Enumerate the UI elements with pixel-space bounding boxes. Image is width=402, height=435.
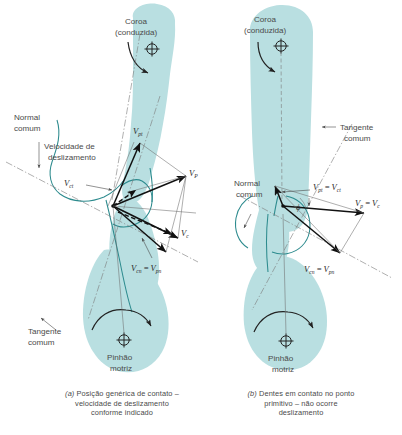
panel-a-driven-label-line1: Coroa [125,17,148,26]
panel-b-vector-label-vp-vc: Vp=Vc [355,198,380,209]
panel-a-driving-label-line1: Pinhão [107,353,133,362]
panel-b-driven-label-line1: Coroa [254,15,277,24]
gear-contact-figure: Normal comum Tangente comum Velocidade d… [0,0,402,435]
caption-b-marker: (b) [248,389,257,398]
panel-b-normal-label-line2: comum [236,190,263,199]
panel-a-tangent-label-line2: comum [28,338,55,347]
caption-panel-b: (b) Dentes em contato no ponto primitivo… [212,389,390,418]
caption-a-line3: conforme indicado [91,408,153,417]
panel-a-sliding-label-line1: Velocidade de [44,142,95,151]
panel-a-driving-label-line2: motriz [110,364,132,373]
panel-b-driving-label-line1: Pinhão [268,354,294,363]
panel-b-angle-phi-label: ϕ [296,202,301,212]
caption-b-line1: Dentes em contato no ponto [259,389,354,398]
panel-a-normal-label-line1: Normal [14,113,40,122]
caption-b-line3: deslizamento [279,408,324,417]
panel-b: Coroa (conduzida) Tangente comum Normal … [234,5,392,374]
panel-a-vector-label-vp: VP [189,168,198,179]
panel-b-left-tooth-profile [236,196,253,248]
caption-a-line1: Posição genérica de contato – [77,389,179,398]
caption-a-line2: velocidade de deslizamento [75,399,169,408]
panel-a-normal-label-line2: comum [14,124,41,133]
panel-b-tangent-label-line1: Tangente [340,123,374,132]
caption-a-marker: (a) [65,389,74,398]
panel-b-vector-label-vpt-vct: Vpt=Vct [313,182,341,193]
panel-b-vector-label-vcn-vpn: Vcn=Vpn [304,264,335,275]
panel-b-driven-label-line2: (conduzida) [244,26,287,35]
panel-a-vector-label-vc: Vc [181,228,189,239]
panel-b-normal-leader [244,214,251,228]
caption-b-line2: primitivo – não ocorre [264,399,337,408]
panel-b-normal-label-line1: Normal [234,179,260,188]
panel-a-driven-label-line2: (conduzida) [115,28,158,37]
panel-a: Normal comum Tangente comum Velocidade d… [6,4,198,373]
panel-a-common-tangent-line [6,162,198,262]
caption-panel-a: (a) Posição genérica de contato – veloci… [34,389,210,418]
panel-a-tangent-label-line1: Tangente [28,327,62,336]
panel-a-vector-label-vct: Vct [64,178,74,189]
panel-a-vct-leader [86,185,112,190]
panel-b-driving-label-line2: motriz [272,365,294,374]
panel-b-tangent-label-line2: comum [344,134,371,143]
panel-a-sliding-label-line2: deslizamento [48,153,96,162]
